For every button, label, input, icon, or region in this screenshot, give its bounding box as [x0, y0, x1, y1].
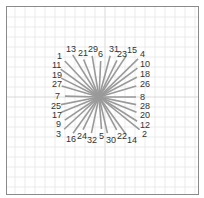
spoke-label: 20 [140, 110, 150, 120]
spoke-label: 22 [117, 131, 127, 141]
spoke-label: 11 [52, 60, 61, 70]
spoke-label: 24 [77, 131, 87, 141]
spoke-label: 13 [66, 44, 76, 54]
spoke-label: 21 [78, 48, 88, 58]
spoke-label: 5 [99, 131, 104, 141]
spoke-label: 27 [52, 79, 62, 89]
spoke-label: 14 [127, 135, 137, 145]
spoke-label: 7 [55, 91, 60, 101]
spoke-label: 18 [140, 69, 150, 79]
spoke-diagram: 1132129631231541018268282012214223053224… [0, 0, 204, 198]
spoke-label: 30 [106, 135, 116, 145]
spoke-label: 32 [87, 135, 97, 145]
spoke-label: 9 [56, 119, 61, 129]
spoke-label: 23 [117, 49, 127, 59]
spoke-label: 10 [140, 59, 150, 69]
spoke-label: 16 [66, 134, 76, 144]
spoke-label: 29 [88, 44, 98, 54]
spoke-label: 4 [140, 49, 145, 59]
spoke-label: 19 [52, 70, 62, 80]
spoke-label: 15 [127, 45, 137, 55]
spoke-label: 17 [52, 110, 62, 120]
spoke-label: 2 [142, 129, 147, 139]
spoke-label: 3 [56, 129, 61, 139]
spoke-label: 6 [98, 49, 103, 59]
spoke-label: 26 [140, 79, 150, 89]
spoke-label: 25 [51, 101, 61, 111]
